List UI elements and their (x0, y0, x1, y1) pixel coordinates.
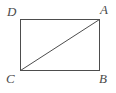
vertex-label-a: A (100, 3, 108, 16)
vertex-label-c: C (6, 72, 15, 85)
diagonal-line-ca (21, 20, 100, 71)
vertex-label-b: B (99, 72, 107, 85)
geometry-figure: D A B C (0, 0, 116, 93)
vertex-label-d: D (7, 5, 16, 18)
